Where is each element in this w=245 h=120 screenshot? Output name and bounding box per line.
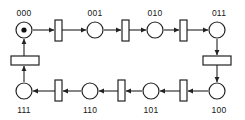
transitions-layer — [11, 20, 231, 101]
place-label: 111 — [17, 105, 31, 115]
place[interactable] — [82, 83, 98, 99]
place[interactable] — [209, 83, 225, 99]
place-label: 110 — [83, 105, 97, 115]
petri-net-diagram: 000001010011100101110111 — [0, 0, 245, 120]
place-label: 100 — [212, 105, 227, 115]
transition-vertical[interactable] — [180, 20, 187, 41]
place[interactable] — [143, 83, 159, 99]
transition-horizontal[interactable] — [11, 56, 39, 65]
place[interactable] — [147, 22, 163, 38]
place-label: 011 — [212, 8, 226, 18]
transition-vertical[interactable] — [180, 80, 187, 101]
place[interactable] — [87, 22, 103, 38]
place-label: 101 — [144, 105, 159, 115]
petri-net-canvas: 000001010011100101110111 — [0, 0, 245, 120]
transition-vertical[interactable] — [55, 80, 62, 101]
transition-vertical[interactable] — [122, 20, 129, 41]
transition-vertical[interactable] — [55, 20, 62, 41]
place[interactable] — [209, 22, 225, 38]
place-label: 001 — [88, 8, 103, 18]
transition-vertical[interactable] — [118, 80, 125, 101]
place-label: 010 — [148, 8, 163, 18]
transition-horizontal[interactable] — [203, 56, 231, 65]
token-marker — [21, 27, 26, 32]
place[interactable] — [16, 83, 32, 99]
place-label: 000 — [17, 8, 32, 18]
